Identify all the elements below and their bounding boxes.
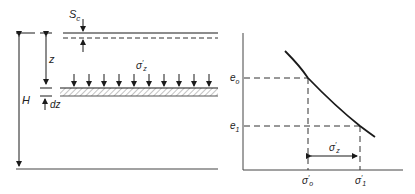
sigma-1-label: σ′1 [355,174,366,187]
h-label: H [22,94,30,106]
stress-increment-label: σ′z [136,59,147,72]
z-label: z [48,53,55,65]
e1-label: e1 [230,120,240,133]
soil-layer-panel: H z dz Sc σ′z [16,8,218,169]
e-log-sigma-chart: σ′z eo e1 σ′o σ′1 [230,33,403,187]
sigma-o-label: σ′o [302,174,313,187]
soil-element-hatch [60,88,218,96]
load-arrows [74,74,209,86]
eo-label: eo [230,72,240,85]
consolidation-diagram: H z dz Sc σ′z [0,0,415,194]
compression-curve [285,51,375,137]
delta-sigma-label: σ′z [329,141,340,154]
settlement-label: Sc [69,8,80,23]
dz-label: dz [50,99,61,110]
